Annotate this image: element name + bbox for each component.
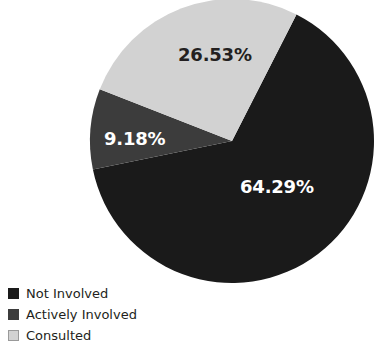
pie-plot-area: 26.53% 9.18% 64.29% (0, 0, 390, 285)
pie-slices (90, 0, 374, 283)
legend-item-consulted[interactable]: Consulted (8, 325, 258, 346)
legend-label-consulted: Consulted (26, 329, 91, 342)
pie-chart: 26.53% 9.18% 64.29% Not Involved Activel… (0, 0, 390, 349)
chart-legend: Not Involved Actively Involved Consulted (8, 283, 258, 346)
legend-swatch-actively-involved (8, 309, 19, 320)
pie-svg (0, 0, 390, 285)
legend-item-not-involved[interactable]: Not Involved (8, 283, 258, 304)
legend-label-not-involved: Not Involved (26, 287, 108, 300)
legend-label-actively-involved: Actively Involved (26, 308, 137, 321)
legend-swatch-not-involved (8, 288, 19, 299)
legend-item-actively-involved[interactable]: Actively Involved (8, 304, 258, 325)
legend-swatch-consulted (8, 330, 19, 341)
